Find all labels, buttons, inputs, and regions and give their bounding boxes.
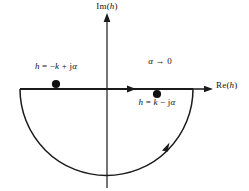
- alpha-limit-arrow-glyph: →: [156, 56, 165, 66]
- imaginary-axis-arrowhead-icon: [104, 13, 111, 22]
- contour-diagram-canvas: [0, 0, 249, 191]
- complex-plane-contour-figure: Im(h) Re(h) h = −k + jα h = k − jα α → 0: [0, 0, 249, 191]
- pole-right-label: h = k − jα: [139, 98, 176, 107]
- pole-left-label-eq: =: [40, 61, 50, 71]
- pole-left-label-alpha: α: [72, 61, 77, 71]
- alpha-limit-annotation: α → 0: [148, 57, 172, 66]
- imaginary-axis-label: Im(h): [96, 2, 118, 11]
- pole-right-label-eq: =: [143, 97, 153, 107]
- pole-marker-left-icon: [52, 80, 60, 88]
- alpha-limit-value: 0: [167, 56, 172, 66]
- real-axis-label-close: ): [234, 80, 237, 90]
- pole-left-label: h = −k + jα: [35, 62, 77, 71]
- pole-left-label-op: +: [59, 61, 69, 71]
- real-axis-label: Re(h): [216, 81, 238, 90]
- imaginary-axis-label-func: Im: [96, 1, 106, 11]
- contour-chord-direction-arrowhead-icon: [127, 85, 136, 92]
- real-axis-arrowhead-icon: [204, 86, 213, 92]
- real-axis-label-func: Re: [216, 80, 226, 90]
- imaginary-axis-label-close: ): [115, 1, 118, 11]
- pole-right-label-alpha: α: [171, 97, 176, 107]
- pole-right-label-op: −: [158, 97, 168, 107]
